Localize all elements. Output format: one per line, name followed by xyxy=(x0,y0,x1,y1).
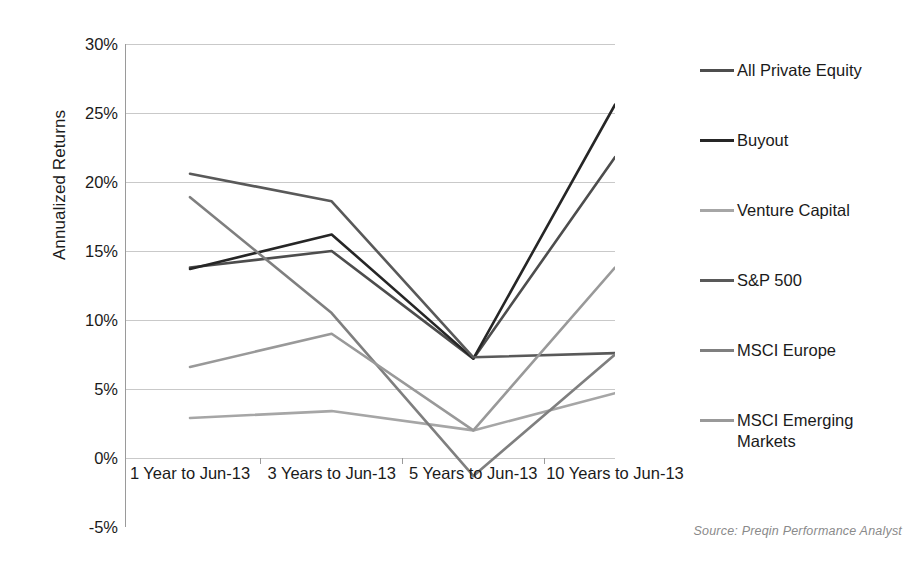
y-axis-tick-label: 25% xyxy=(62,105,118,122)
y-axis-tick-label: 0% xyxy=(62,450,118,467)
y-axis-tick-label: 20% xyxy=(62,174,118,191)
series-line-5 xyxy=(190,268,615,431)
legend-swatch-icon xyxy=(700,209,734,212)
series-line-1 xyxy=(190,105,615,359)
legend-label: MSCI Emerging Markets xyxy=(737,410,907,451)
legend-item[interactable]: Venture Capital xyxy=(700,200,850,221)
x-axis-tick-labels: 1 Year to Jun-133 Years to Jun-135 Years… xyxy=(125,462,625,532)
legend-item[interactable]: MSCI Europe xyxy=(700,340,836,361)
x-axis-tick-label: 3 Years to Jun-13 xyxy=(261,462,403,484)
source-note: Source: Preqin Performance Analyst xyxy=(693,524,902,538)
legend-item[interactable]: S&P 500 xyxy=(700,270,802,291)
y-axis-tick-labels: -5%0%5%10%15%20%25%30% xyxy=(62,0,118,573)
legend-item[interactable]: All Private Equity xyxy=(700,60,862,81)
legend-label: MSCI Europe xyxy=(737,340,836,361)
series-line-3 xyxy=(190,174,615,358)
y-axis-tick-label: 30% xyxy=(62,36,118,53)
legend-label: S&P 500 xyxy=(737,270,802,291)
x-axis-tick-label: 5 Years to Jun-13 xyxy=(403,462,545,484)
x-axis-tick-label: 1 Year to Jun-13 xyxy=(119,462,261,484)
legend-item[interactable]: MSCI Emerging Markets xyxy=(700,410,907,451)
chart-canvas xyxy=(125,44,615,527)
legend-item[interactable]: Buyout xyxy=(700,130,788,151)
legend-label: All Private Equity xyxy=(737,60,862,81)
y-axis-tick-label: 15% xyxy=(62,243,118,260)
legend-swatch-icon xyxy=(700,279,734,282)
legend-swatch-icon xyxy=(700,69,734,72)
legend-label: Venture Capital xyxy=(737,200,850,221)
y-axis-tick-label: 10% xyxy=(62,312,118,329)
legend-swatch-icon xyxy=(700,349,734,352)
legend-label: Buyout xyxy=(737,130,788,151)
plot-area xyxy=(125,44,615,527)
series-line-4 xyxy=(190,197,615,476)
x-axis-tick-label: 10 Years to Jun-13 xyxy=(544,462,686,484)
line-chart: Annualized Returns -5%0%5%10%15%20%25%30… xyxy=(0,0,920,573)
legend-swatch-icon xyxy=(700,139,734,142)
legend-swatch-icon xyxy=(700,419,734,422)
y-axis-tick-label: -5% xyxy=(62,519,118,536)
series-line-2 xyxy=(190,393,615,430)
y-axis-tick-label: 5% xyxy=(62,381,118,398)
